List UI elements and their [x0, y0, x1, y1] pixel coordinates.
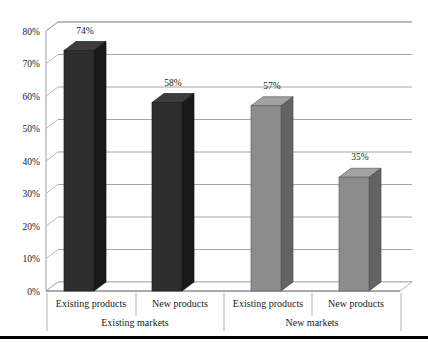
y-tick-50: 50%	[23, 124, 41, 134]
y-tick-10: 10%	[23, 254, 41, 264]
bottom-rule	[0, 336, 428, 339]
group-label-1: Existing markets	[101, 317, 169, 328]
data-label-bar-4: 35%	[351, 152, 369, 162]
y-tick-70: 70%	[23, 59, 41, 69]
category-label-1: Existing products	[56, 298, 126, 309]
category-label-2: New products	[152, 298, 208, 309]
category-label-3: Existing products	[233, 298, 303, 309]
bar-1-side	[94, 42, 106, 292]
y-tick-30: 30%	[23, 189, 41, 199]
y-tick-60: 60%	[23, 92, 41, 102]
bar-3-side	[281, 97, 293, 291]
group-label-2: New markets	[285, 317, 338, 328]
bar-1-front	[64, 51, 94, 292]
category-label-4: New products	[328, 298, 384, 309]
bar-2-front	[152, 103, 182, 292]
bar-4-side	[369, 168, 381, 291]
data-label-bar-2: 58%	[164, 78, 182, 88]
y-tick-20: 20%	[23, 222, 41, 232]
chart-svg: 80% 70% 60% 50% 40% 30% 20% 10% 0% 74% 5…	[0, 0, 428, 344]
bar-chart: 80% 70% 60% 50% 40% 30% 20% 10% 0% 74% 5…	[0, 0, 428, 344]
y-axis-tick-labels: 80% 70% 60% 50% 40% 30% 20% 10% 0%	[23, 27, 41, 297]
bar-4-front	[339, 177, 369, 291]
y-tick-0: 0%	[27, 287, 40, 297]
bar-1	[64, 42, 106, 292]
bar-2	[152, 94, 194, 292]
y-tick-80: 80%	[23, 27, 41, 37]
bar-3-front	[251, 106, 281, 291]
bar-3	[251, 97, 293, 291]
y-tick-40: 40%	[23, 157, 41, 167]
bar-2-side	[182, 94, 194, 292]
data-label-bar-1: 74%	[76, 26, 94, 36]
bar-4	[339, 168, 381, 291]
data-label-bar-3: 57%	[263, 81, 281, 91]
